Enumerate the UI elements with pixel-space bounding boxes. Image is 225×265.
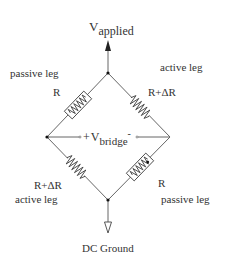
top-left-role-label: passive leg bbox=[10, 67, 59, 79]
plus-terminal bbox=[79, 136, 81, 138]
top-right-role-label: active leg bbox=[160, 61, 203, 73]
minus-terminal bbox=[136, 136, 138, 138]
top-left-value-label: R bbox=[53, 86, 61, 98]
top-node bbox=[106, 71, 109, 74]
ground-arrow-icon bbox=[105, 222, 112, 233]
v-applied-label: Vapplied bbox=[89, 19, 134, 38]
supply-arrow-icon bbox=[105, 40, 111, 51]
bottom-left-value-label: R+ΔR bbox=[34, 179, 63, 191]
top-right-value-label: R+ΔR bbox=[148, 86, 177, 98]
resistor-top-right-icon bbox=[127, 94, 152, 120]
wheatstone-bridge-diagram: Vapplied passive leg R active leg R+ΔR +… bbox=[0, 0, 225, 265]
bottom-left-role-label: active leg bbox=[15, 193, 58, 205]
resistor-bottom-right-icon bbox=[126, 153, 153, 181]
v-bridge-label: +Vbridge- bbox=[83, 128, 131, 147]
left-node bbox=[45, 135, 48, 138]
bottom-right-role-label: passive leg bbox=[161, 193, 210, 205]
bottom-node bbox=[106, 198, 109, 201]
bottom-right-value-label: R bbox=[158, 177, 166, 189]
resistor-top-left-icon bbox=[64, 91, 91, 119]
resistor-bottom-left-icon bbox=[63, 154, 88, 180]
dc-ground-label: DC Ground bbox=[82, 242, 134, 254]
